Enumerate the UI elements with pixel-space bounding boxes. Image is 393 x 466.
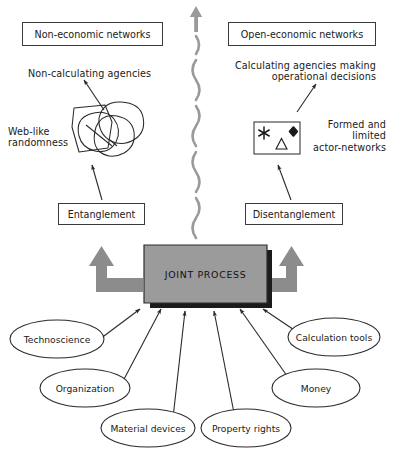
input-connectors <box>88 309 318 418</box>
four-pointed-star-icon <box>290 128 297 136</box>
left-up-arrow-icon <box>89 246 143 292</box>
wavy-divider-icon <box>193 36 200 238</box>
web-like-randomness-scribble-icon <box>72 102 144 156</box>
ellipse-material-devices[interactable] <box>101 409 195 447</box>
connector-material-devices <box>173 311 185 418</box>
input-ellipses <box>10 318 380 447</box>
divider-up-arrow-icon <box>190 6 202 32</box>
label-non-calculating-agencies: Non-calculating agencies <box>28 68 151 79</box>
ellipse-property-rights[interactable] <box>201 409 291 447</box>
connector-property-rights <box>214 311 235 418</box>
ellipse-calculation-tools[interactable] <box>288 318 380 356</box>
box-entanglement[interactable]: Entanglement <box>58 203 145 225</box>
label-formed-and-limited-actor-networks: Formed and limited actor-networks <box>300 119 386 153</box>
label-web-like-randomness: Web-like randomness <box>8 126 68 149</box>
connector-symbols-to-calculating <box>297 84 316 112</box>
connector-disentanglement-to-symbols <box>278 165 291 200</box>
label-calculating-agencies: Calculating agencies making operational … <box>224 60 376 83</box>
ellipse-organization[interactable] <box>40 369 130 407</box>
box-open-economic-networks[interactable]: Open-economic networks <box>228 22 376 46</box>
ellipse-technoscience[interactable] <box>10 320 104 358</box>
box-disentanglement[interactable]: Disentanglement <box>245 203 343 225</box>
diagram-canvas: Non-economic networks Open-economic netw… <box>0 0 393 466</box>
ellipse-money[interactable] <box>272 369 360 407</box>
connector-organization <box>122 309 161 383</box>
joint-process-shape <box>144 245 272 308</box>
box-non-economic-networks[interactable]: Non-economic networks <box>22 22 163 46</box>
connector-entanglement-to-scribble <box>92 165 102 200</box>
actor-network-symbol-box <box>254 122 300 154</box>
connector-money <box>240 309 292 383</box>
